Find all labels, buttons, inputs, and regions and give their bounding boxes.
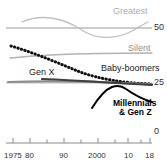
x-axis-tick-1975: 1975	[4, 151, 22, 160]
x-axis-tick-2000: 2000	[88, 151, 106, 160]
series-label-greatest: Greatest	[113, 7, 148, 16]
x-axis-tick-18: 18	[145, 151, 154, 160]
x-axis-ticks	[13, 138, 150, 143]
y-axis-tick-25: 25	[154, 77, 164, 87]
chart-plot-area	[0, 0, 167, 165]
series-label-gen-x: Gen X	[29, 68, 55, 77]
series-label-millennials-line2: & Gen Z	[119, 108, 156, 117]
y-axis-tick-0: 0	[154, 126, 159, 136]
y-axis-tick-50: 50	[154, 22, 164, 32]
series-label-silent: Silent	[128, 44, 151, 53]
generations-line-chart: Greatest Silent Baby-boomers Gen X Mille…	[0, 0, 167, 165]
series-label-baby-boomers: Baby-boomers	[101, 64, 160, 73]
x-axis-tick-10: 10	[124, 151, 133, 160]
x-axis-tick-80: 80	[25, 151, 34, 160]
series-label-millennials-genz: Millennials & Gen Z	[113, 99, 156, 117]
x-axis-tick-90: 90	[59, 151, 68, 160]
